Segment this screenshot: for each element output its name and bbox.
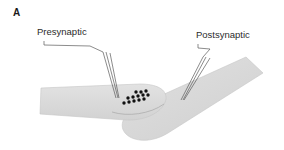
vesicle-dot xyxy=(144,89,147,92)
postsynaptic-leader-bracket xyxy=(198,44,210,57)
vesicle-dot xyxy=(127,100,130,103)
panel-label-a: A xyxy=(13,8,20,18)
presynaptic-label: Presynaptic xyxy=(37,27,87,37)
vesicle-dot xyxy=(146,93,149,96)
vesicle-dot xyxy=(141,93,144,96)
vesicle-dot xyxy=(137,98,140,101)
vesicle-dot xyxy=(142,97,145,100)
vesicle-dot xyxy=(132,99,135,102)
presynaptic-terminal xyxy=(40,84,166,120)
synapse-diagram-canvas xyxy=(0,0,284,150)
postsynaptic-label: Postsynaptic xyxy=(196,30,250,40)
vesicle-dot xyxy=(134,90,137,93)
vesicle-dot xyxy=(139,90,142,93)
vesicle-dot xyxy=(126,96,129,99)
synapse-figure: A Presynaptic Postsynaptic xyxy=(0,0,284,150)
vesicle-dot xyxy=(122,101,125,104)
vesicle-dot xyxy=(131,95,134,98)
vesicle-dot xyxy=(136,94,139,97)
presynaptic-leader-bracket xyxy=(44,41,103,52)
